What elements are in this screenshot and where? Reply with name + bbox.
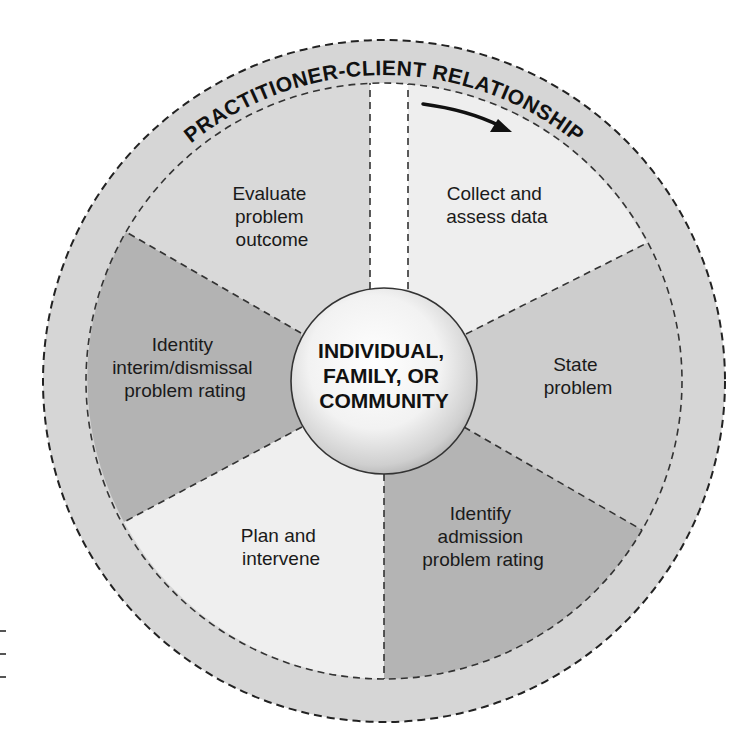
center-label: INDIVIDUAL, FAMILY, OR COMMUNITY — [318, 339, 450, 412]
center-hub: INDIVIDUAL, FAMILY, OR COMMUNITY — [291, 288, 477, 474]
cycle-gap-strip — [370, 83, 408, 289]
margin-mark — [0, 653, 6, 655]
segment-label-evaluate: Evaluate problem outcome — [232, 183, 311, 250]
margin-mark — [0, 676, 6, 678]
nursing-process-wheel-diagram: PRACTITIONER-CLIENT RELATIONSHIP Collect… — [0, 0, 752, 749]
margin-mark — [0, 630, 6, 632]
